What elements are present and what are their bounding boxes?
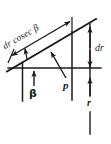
radius-r-label: r [87, 98, 91, 108]
slant-dimension-tick-left [8, 49, 14, 63]
p-leader-arrow [51, 52, 66, 78]
rise-label: dr [95, 43, 104, 53]
rise-label-text: dr [95, 42, 104, 53]
figure-canvas [0, 0, 111, 144]
radius-r-text: r [87, 97, 91, 108]
perpendicular-p-label: p [63, 80, 69, 91]
angle-beta-label: β [29, 88, 37, 99]
angle-beta-text: β [29, 87, 37, 100]
inclined-line [7, 19, 96, 72]
slant-start-leader-arrow [25, 49, 27, 60]
geometry-figure: dr cosec β dr β p r [0, 0, 111, 144]
perpendicular-p-text: p [63, 79, 69, 91]
